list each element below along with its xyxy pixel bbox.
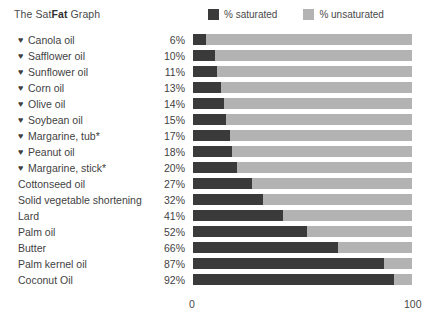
row-value-label: 10% xyxy=(140,48,185,64)
row-value-label: 32% xyxy=(140,192,185,208)
heart-icon: ♥ xyxy=(18,128,23,144)
satfat-chart: The SatFat Graph % saturated % unsaturat… xyxy=(0,0,430,318)
legend-item-saturated[interactable]: % saturated xyxy=(208,9,277,20)
chart-row: Solid vegetable shortening32% xyxy=(0,192,430,208)
row-label-text: Lard xyxy=(18,208,39,224)
row-label-text: Margarine, tub* xyxy=(28,128,100,144)
bar-segment-saturated xyxy=(193,194,263,205)
row-label-text: Coconut Oil xyxy=(18,272,73,288)
chart-row: ♥Safflower oil10% xyxy=(0,48,430,64)
bar-track xyxy=(193,258,412,269)
row-label-text: Soybean oil xyxy=(28,112,83,128)
row-label-safflower-oil: ♥Safflower oil xyxy=(0,48,150,64)
bar-track xyxy=(193,34,412,45)
chart-row: ♥Olive oil14% xyxy=(0,96,430,112)
legend-label-saturated: % saturated xyxy=(224,9,277,20)
bar-segment-saturated xyxy=(193,114,226,125)
bar-track xyxy=(193,114,412,125)
x-axis: 0 100 xyxy=(0,297,430,313)
row-label-text: Safflower oil xyxy=(28,48,85,64)
bar-segment-saturated xyxy=(193,242,338,253)
row-label-margarine-tub: ♥Margarine, tub* xyxy=(0,128,150,144)
bar-track xyxy=(193,210,412,221)
bar-segment-saturated xyxy=(193,210,283,221)
bar-track xyxy=(193,82,412,93)
row-value-label: 20% xyxy=(140,160,185,176)
row-value-label: 11% xyxy=(140,64,185,80)
bar-track xyxy=(193,226,412,237)
chart-row: Lard41% xyxy=(0,208,430,224)
bar-segment-saturated xyxy=(193,50,215,61)
chart-row: Butter66% xyxy=(0,240,430,256)
heart-icon: ♥ xyxy=(18,144,23,160)
heart-icon: ♥ xyxy=(18,112,23,128)
bar-segment-saturated xyxy=(193,130,230,141)
row-label-margarine-stick: ♥Margarine, stick* xyxy=(0,160,150,176)
row-label-palm-kernel-oil: Palm kernel oil xyxy=(0,256,150,272)
page-title: The SatFat Graph xyxy=(14,8,100,20)
chart-row: ♥Margarine, tub*17% xyxy=(0,128,430,144)
row-value-label: 92% xyxy=(140,272,185,288)
row-label-peanut-oil: ♥Peanut oil xyxy=(0,144,150,160)
row-value-label: 13% xyxy=(140,80,185,96)
bar-segment-saturated xyxy=(193,274,394,285)
row-value-label: 41% xyxy=(140,208,185,224)
chart-rows: ♥Canola oil6%♥Safflower oil10%♥Sunflower… xyxy=(0,32,430,288)
bar-track xyxy=(193,130,412,141)
chart-row: ♥Canola oil6% xyxy=(0,32,430,48)
bar-track xyxy=(193,274,412,285)
bar-segment-saturated xyxy=(193,98,224,109)
row-value-label: 15% xyxy=(140,112,185,128)
bar-track xyxy=(193,162,412,173)
row-label-solid-vegetable-shortening: Solid vegetable shortening xyxy=(0,192,150,208)
row-label-text: Olive oil xyxy=(28,96,65,112)
row-label-text: Cottonseed oil xyxy=(18,176,85,192)
row-value-label: 14% xyxy=(140,96,185,112)
row-label-palm-oil: Palm oil xyxy=(0,224,150,240)
bar-segment-saturated xyxy=(193,258,384,269)
bar-track xyxy=(193,66,412,77)
title-bold: Fat xyxy=(51,8,67,20)
legend-item-unsaturated[interactable]: % unsaturated xyxy=(303,9,384,20)
row-label-olive-oil: ♥Olive oil xyxy=(0,96,150,112)
chart-row: Coconut Oil92% xyxy=(0,272,430,288)
row-value-label: 66% xyxy=(140,240,185,256)
heart-icon: ♥ xyxy=(18,96,23,112)
row-value-label: 87% xyxy=(140,256,185,272)
chart-row: Cottonseed oil27% xyxy=(0,176,430,192)
bar-segment-saturated xyxy=(193,82,221,93)
bar-segment-saturated xyxy=(193,178,252,189)
title-prefix: The Sat xyxy=(14,8,51,20)
bar-track xyxy=(193,98,412,109)
row-label-text: Palm kernel oil xyxy=(18,256,87,272)
row-label-text: Palm oil xyxy=(18,224,55,240)
row-label-cottonseed-oil: Cottonseed oil xyxy=(0,176,150,192)
bar-track xyxy=(193,146,412,157)
row-label-text: Sunflower oil xyxy=(28,64,88,80)
chart-row: ♥Margarine, stick*20% xyxy=(0,160,430,176)
row-label-corn-oil: ♥Corn oil xyxy=(0,80,150,96)
row-label-soybean-oil: ♥Soybean oil xyxy=(0,112,150,128)
row-label-text: Corn oil xyxy=(28,80,64,96)
row-label-lard: Lard xyxy=(0,208,150,224)
row-value-label: 52% xyxy=(140,224,185,240)
heart-icon: ♥ xyxy=(18,48,23,64)
row-label-text: Butter xyxy=(18,240,46,256)
row-value-label: 17% xyxy=(140,128,185,144)
chart-legend: % saturated % unsaturated xyxy=(208,9,384,20)
chart-row: ♥Peanut oil18% xyxy=(0,144,430,160)
row-label-text: Margarine, stick* xyxy=(28,160,106,176)
chart-header: The SatFat Graph % saturated % unsaturat… xyxy=(0,8,430,26)
axis-tick-0: 0 xyxy=(189,297,195,311)
row-label-text: Solid vegetable shortening xyxy=(18,192,142,208)
chart-row: ♥Soybean oil15% xyxy=(0,112,430,128)
row-label-text: Peanut oil xyxy=(28,144,75,160)
bar-segment-saturated xyxy=(193,66,217,77)
chart-row: ♥Sunflower oil11% xyxy=(0,64,430,80)
row-label-butter: Butter xyxy=(0,240,150,256)
row-label-canola-oil: ♥Canola oil xyxy=(0,32,150,48)
row-value-label: 27% xyxy=(140,176,185,192)
row-label-text: Canola oil xyxy=(28,32,75,48)
heart-icon: ♥ xyxy=(18,64,23,80)
heart-icon: ♥ xyxy=(18,32,23,48)
